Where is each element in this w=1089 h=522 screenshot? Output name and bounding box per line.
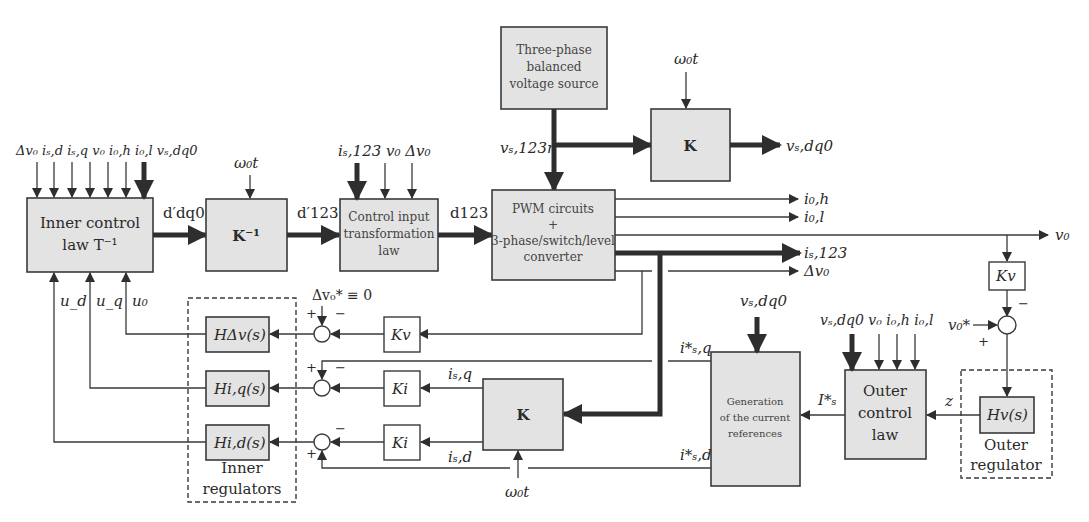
gen-label-1: Generation [727,396,784,407]
z-label: z [944,392,953,410]
source-label-1: Three-phase [516,43,592,57]
three-phase-source-block: Three-phase balanced voltage source [501,27,607,109]
k-bottom-block: K [483,379,563,450]
svg-text:−: − [1018,296,1029,311]
outer-regulator-label-1: Outer [984,436,1029,454]
h-id-block: Hi,d(s) [206,425,269,460]
isd-ref-label: i*ₛ,d [680,446,712,464]
inner-regulators-label-2: regulators [203,480,282,498]
isq-label: iₛ,q [448,365,472,383]
control-input-input-labels: iₛ,123 v₀ Δv₀ [338,142,431,160]
omega-t-kbottom-label: ω₀t [505,483,530,501]
kv-mid-label: Kv [390,326,411,344]
isd-label: iₛ,d [448,448,472,466]
Is-ref-label: I*ₛ [817,391,836,409]
sum-junction-iq [314,380,330,396]
source-label-2: balanced [526,60,581,74]
svg-text:+: + [978,334,989,349]
inner-regulators-label-1: Inner [221,459,263,477]
k-bottom-label: K [516,406,530,424]
omega-t-ktop-label: ω₀t [674,50,699,68]
ki-d-block: Ki [384,425,420,460]
v-sdq0-out-label: vₛ,dq0 [786,137,834,155]
svg-text:+: + [306,446,317,461]
h-iq-block: Hi,q(s) [206,371,269,406]
sum-junction-outer [998,316,1016,334]
current-reference-generation-block: Generation of the current references [711,352,800,486]
i0l-label: i₀,l [804,208,825,226]
d-123-prime-label: d′123 [297,204,339,222]
h-dv-label: HΔv(s) [213,326,266,344]
pwm-label-3: 3-phase/switch/level [491,234,615,248]
h-v-block: Hv(s) [980,397,1034,433]
kv-mid-block: Kv [384,317,420,352]
pwm-label-1: PWM circuits [512,202,594,216]
u-0-label: u₀ [132,292,148,310]
control-input-label-2: transformation [343,227,434,241]
source-label-3: voltage source [508,77,598,91]
dv0-label: Δv₀ [803,262,829,280]
u-q-label: u_q [96,292,123,310]
is123-label: iₛ,123 [804,244,847,262]
gen-label-3: references [728,428,782,439]
kv-right-label: Kv [995,267,1016,285]
inner-control-label-1: Inner control [40,214,140,232]
k-top-label: K [683,137,697,155]
svg-text:−: − [335,421,346,436]
k-inverse-block: K⁻¹ [206,199,287,271]
isq-ref-label: i*ₛ,q [680,339,712,357]
dv0-ref-label: Δv₀* ≡ 0 [312,287,372,303]
control-input-label-1: Control input [348,210,430,224]
svg-text:−: − [335,306,346,321]
u-d-label: u_d [60,292,87,310]
control-input-label-3: law [378,244,400,258]
svg-text:−: − [335,360,346,375]
k-inverse-label: K⁻¹ [232,227,260,245]
inner-control-label-2: law T⁻¹ [62,236,117,254]
control-input-transformation-block: Control input transformation law [340,199,438,271]
outer-label-3: law [872,426,899,444]
d-123-label: d123 [450,204,488,222]
kv-right-block: Kv [989,262,1025,290]
h-id-label: Hi,d(s) [213,434,266,452]
inner-control-inputs: Δv₀ iₛ,d iₛ,q v₀ i₀,h i₀,l vₛ,dq0 [15,143,198,198]
d-dq0-label: d′dq0 [163,204,205,222]
outer-control-law-block: Outer control law [845,370,926,459]
control-block-diagram: Inner control law T⁻¹ Δv₀ iₛ,d iₛ,q v₀ i… [0,0,1089,522]
i0h-label: i₀,h [804,190,829,208]
pwm-converter-block: PWM circuits + 3-phase/switch/level conv… [491,190,615,280]
gen-label-2: of the current [720,412,790,423]
inner-control-law-block: Inner control law T⁻¹ [27,198,153,272]
h-iq-label: Hi,q(s) [213,380,266,398]
v0-ref-label: v₀* [948,316,970,334]
v-sdq0-gen-label: vₛ,dq0 [740,292,788,310]
outer-label-1: Outer [863,382,908,400]
pwm-label-4: converter [524,250,583,264]
svg-text:+: + [306,360,317,375]
pwm-label-2: + [548,218,558,232]
h-dv-block: HΔv(s) [206,317,269,352]
omega-t-kinv-label: ω₀t [234,154,259,172]
k-top-block: K [651,109,730,181]
sum-junction-dv [314,326,330,342]
ki-d-label: Ki [391,434,408,452]
outer-regulator-label-2: regulator [970,456,1042,474]
ki-q-label: Ki [391,380,408,398]
svg-text:+: + [306,306,317,321]
h-v-label: Hv(s) [986,406,1028,424]
v0-output-label: v₀ [1055,226,1070,244]
ki-q-block: Ki [384,371,420,406]
outer-input-labels: vₛ,dq0 v₀ i₀,h i₀,l [820,312,933,328]
outer-label-2: control [858,404,912,422]
inner-control-input-labels: Δv₀ iₛ,d iₛ,q v₀ i₀,h i₀,l vₛ,dq0 [15,143,198,158]
v-s123n-label: vₛ,123n [500,139,557,157]
